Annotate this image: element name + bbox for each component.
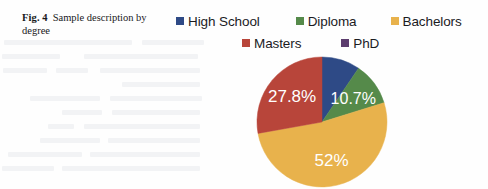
legend-swatch-phd [341,39,349,47]
legend-swatch-high-school [176,17,184,25]
legend-swatch-masters [242,39,250,47]
pie-chart-svg: 10.7%52%27.8% [256,56,388,188]
legend-row-2: Masters PhD [176,32,482,54]
figure-number: Fig. 4 [22,12,48,23]
figure-caption: Fig. 4Sample description by degree [22,12,174,37]
legend-item-high-school[interactable]: High School [176,14,260,29]
legend-label-bachelors: Bachelors [403,14,462,29]
chart-legend: High School Diploma Bachelors Masters Ph… [176,10,482,54]
pie-chart: 10.7%52%27.8% [256,56,388,188]
legend-swatch-bachelors [391,17,399,25]
pie-slice-label-masters: 27.8% [268,87,316,106]
legend-item-bachelors[interactable]: Bachelors [391,14,462,29]
legend-label-masters: Masters [254,36,301,51]
legend-item-diploma[interactable]: Diploma [296,14,357,29]
legend-label-phd: PhD [353,36,379,51]
legend-swatch-diploma [296,17,304,25]
page-bleedthrough-texture [0,38,210,189]
pie-slice-label-bachelors: 52% [314,151,348,170]
legend-item-phd[interactable]: PhD [341,36,379,51]
legend-label-high-school: High School [188,14,260,29]
pie-slice-label-diploma: 10.7% [331,90,376,107]
legend-label-diploma: Diploma [308,14,357,29]
legend-item-masters[interactable]: Masters [242,36,301,51]
legend-row-1: High School Diploma Bachelors [176,10,482,32]
figure-panel: Fig. 4Sample description by degree High … [0,0,488,189]
